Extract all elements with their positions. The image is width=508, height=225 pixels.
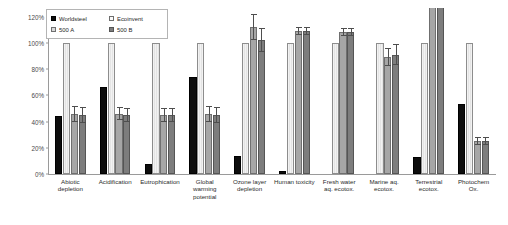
legend-label-500b: 500 B: [117, 27, 132, 33]
bar: [392, 55, 399, 174]
error-bar-cap-top: [348, 28, 354, 29]
legend-swatch-500a: [51, 27, 56, 32]
error-bar: [172, 108, 173, 121]
bar-chart: 0%20%40%60%80%100%120% AbioticdepletionA…: [0, 0, 508, 225]
error-bar-cap-bottom: [483, 144, 489, 145]
bar: [250, 27, 257, 174]
bar-group: [362, 10, 407, 174]
bar: [234, 156, 241, 174]
bar: [295, 31, 302, 174]
bar-group: [272, 10, 317, 174]
error-bar-cap-top: [259, 28, 265, 29]
legend-label-worldsteel: Worldsteel: [59, 16, 87, 22]
bar: [332, 43, 339, 174]
error-bar: [216, 107, 217, 123]
legend-label-ecoinvent: Ecoinvent: [117, 16, 143, 22]
chart-legend: Worldsteel Ecoinvent 500 A 500 B: [46, 9, 168, 39]
error-bar-cap-bottom: [475, 144, 481, 145]
x-axis-line: [48, 174, 496, 175]
error-bar-cap-bottom: [304, 34, 310, 35]
error-bar-cap-top: [304, 27, 310, 28]
error-bar-cap-top: [169, 108, 175, 109]
legend-swatch-worldsteel: [51, 16, 56, 21]
bar: [474, 141, 481, 174]
error-bar-cap-top: [385, 48, 391, 49]
legend-swatch-ecoinvent: [109, 16, 114, 21]
bar: [79, 115, 86, 174]
y-tick-label: 80%: [0, 66, 44, 73]
error-bar-cap-top: [475, 137, 481, 138]
bar: [376, 43, 383, 174]
bar: [213, 115, 220, 174]
bar: [189, 77, 196, 174]
x-axis-category-label: PhotochemOx.: [447, 178, 500, 193]
error-bar-cap-bottom: [72, 121, 78, 122]
error-bar-cap-bottom: [206, 121, 212, 122]
error-bar-cap-top: [296, 27, 302, 28]
error-bar-cap-top: [124, 108, 130, 109]
error-bar-cap-top: [341, 28, 347, 29]
error-bar-cap-top: [251, 14, 257, 15]
bar: [71, 114, 78, 174]
y-tick-label: 120%: [0, 13, 44, 20]
error-bar-cap-bottom: [393, 64, 399, 65]
legend-item-500b: 500 B: [109, 27, 132, 33]
bar-group: [227, 10, 272, 174]
error-bar-cap-bottom: [214, 122, 220, 123]
bar: [384, 57, 391, 174]
error-bar-cap-bottom: [80, 122, 86, 123]
error-bar: [209, 106, 210, 122]
error-bar: [388, 48, 389, 66]
bar: [482, 141, 489, 174]
bar: [287, 43, 294, 174]
y-tick-label: 0%: [0, 171, 44, 178]
error-bar: [396, 44, 397, 65]
error-bar: [298, 27, 299, 35]
bar: [258, 40, 265, 174]
bar: [123, 115, 130, 174]
bar: [115, 114, 122, 174]
bar-group: [451, 10, 496, 174]
error-bar: [351, 28, 352, 36]
bar: [279, 171, 286, 174]
legend-item-ecoinvent: Ecoinvent: [109, 16, 143, 22]
bar: [413, 157, 420, 174]
legend-row-1: Worldsteel Ecoinvent: [51, 13, 163, 24]
error-bar: [82, 107, 83, 123]
error-bar-cap-bottom: [117, 119, 123, 120]
bar: [63, 43, 70, 174]
legend-item-worldsteel: Worldsteel: [51, 16, 109, 22]
bar: [466, 43, 473, 174]
legend-item-500a: 500 A: [51, 27, 109, 33]
error-bar: [485, 137, 486, 145]
error-bar-cap-bottom: [161, 121, 167, 122]
bar: [339, 32, 346, 174]
bar: [145, 164, 152, 174]
y-tick-label: 40%: [0, 118, 44, 125]
error-bar: [164, 108, 165, 121]
y-tick-label: 100%: [0, 39, 44, 46]
error-bar-cap-bottom: [385, 65, 391, 66]
legend-swatch-500b: [109, 27, 114, 32]
error-bar: [74, 106, 75, 122]
error-bar-cap-bottom: [251, 39, 257, 40]
bar: [242, 43, 249, 174]
bar: [205, 114, 212, 174]
error-bar-cap-bottom: [259, 51, 265, 52]
error-bar-cap-bottom: [296, 34, 302, 35]
bar: [458, 104, 465, 174]
bar-group: [317, 10, 362, 174]
bar: [100, 87, 107, 174]
bar: [168, 115, 175, 174]
bar: [429, 8, 436, 174]
error-bar-cap-top: [214, 107, 220, 108]
bar: [152, 43, 159, 174]
error-bar: [343, 28, 344, 36]
error-bar: [127, 108, 128, 121]
bar: [437, 8, 444, 174]
error-bar-cap-top: [393, 44, 399, 45]
y-tick-label: 60%: [0, 92, 44, 99]
bar: [55, 116, 62, 174]
error-bar: [477, 137, 478, 145]
bar-group: [182, 10, 227, 174]
